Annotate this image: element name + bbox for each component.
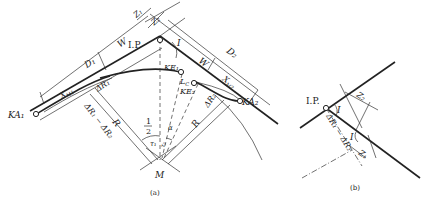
ke2-point bbox=[191, 80, 196, 85]
xm2-label: XM2 bbox=[219, 74, 237, 91]
ip-point-b bbox=[323, 105, 328, 110]
tau2-label: τ₂ bbox=[158, 140, 167, 148]
ip-label-a: I.P. bbox=[128, 40, 142, 50]
angle-i-arc bbox=[172, 42, 177, 58]
tangent-line-b-right bbox=[326, 108, 420, 178]
ke1-point bbox=[178, 69, 183, 74]
z1-label-a: Z₁ bbox=[131, 7, 144, 20]
half-denominator: 2 bbox=[146, 127, 151, 136]
half-numerator: 1 bbox=[146, 117, 151, 126]
z2-extension-2 bbox=[356, 102, 370, 130]
ka1-point bbox=[33, 111, 38, 116]
r-label-right: R bbox=[189, 118, 202, 130]
tick bbox=[40, 92, 44, 104]
radius-line-left-2 bbox=[90, 94, 152, 164]
radius-line-right-2 bbox=[168, 105, 230, 164]
z1-extension bbox=[368, 135, 376, 158]
tangent-extension bbox=[160, 18, 185, 36]
tangent-line-right bbox=[160, 36, 278, 124]
ke2-label: KE₂ bbox=[179, 87, 195, 96]
tick bbox=[98, 52, 106, 70]
z1-label-b: Z₁ bbox=[356, 148, 369, 161]
center-cross-2 bbox=[146, 148, 180, 172]
dr-diff-label-a: ΔR₁ − ΔR₂ bbox=[82, 101, 115, 140]
caption-a: (a) bbox=[150, 189, 160, 197]
ka1-label: KA₁ bbox=[7, 110, 24, 120]
center-cross-1 bbox=[140, 146, 176, 170]
lc-label: LC bbox=[179, 77, 189, 87]
angle-i-label-a: I bbox=[176, 38, 181, 48]
caption-b: (b) bbox=[350, 184, 360, 192]
w-label-right: W bbox=[197, 56, 211, 70]
dr1-label: ΔR₁ bbox=[93, 78, 111, 94]
alpha-arc bbox=[166, 138, 172, 140]
ip-point bbox=[157, 37, 162, 42]
tangent-line-b-left bbox=[300, 62, 395, 128]
ip-label-b: I.P. bbox=[306, 96, 320, 106]
d2-label: D₂ bbox=[224, 45, 240, 60]
diagram-canvas: I.P. I Z₁ Z₂ D₁ W XM1 ΔR₁ ΔR₁ − ΔR₂ R KA… bbox=[0, 0, 448, 208]
z2-label-b: Z₂ bbox=[354, 90, 367, 103]
angle-i-label-b-top: I bbox=[336, 105, 341, 115]
figure-a: I.P. I Z₁ Z₂ D₁ W XM1 ΔR₁ ΔR₁ − ΔR₂ R KA… bbox=[7, 2, 278, 197]
ka2-label: KA₂ bbox=[241, 97, 259, 107]
center-m-label: M bbox=[154, 170, 165, 180]
alpha-label: α bbox=[168, 124, 173, 132]
d1-label: D₁ bbox=[82, 56, 97, 71]
dr2-label: ΔR₂ bbox=[202, 92, 219, 110]
tau1-label: τ₁ bbox=[150, 140, 157, 148]
offset-dash-b bbox=[302, 150, 352, 178]
ke1-label: KE₁ bbox=[163, 63, 179, 72]
figure-b: I.P. I I Z₂ Z₁ ΔR₁ − ΔR₂ (b) bbox=[300, 62, 420, 192]
angle-i-arc-b-bottom bbox=[355, 132, 358, 142]
